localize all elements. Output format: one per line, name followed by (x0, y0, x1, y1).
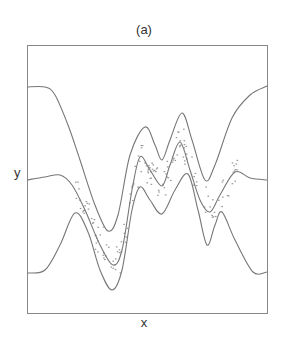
data-point (84, 205, 86, 206)
data-point (94, 219, 96, 220)
plot-frame (28, 46, 268, 314)
data-point (221, 206, 223, 207)
data-point (78, 188, 80, 189)
data-point (165, 194, 167, 195)
data-point (237, 160, 239, 161)
data-point (100, 234, 102, 235)
data-point (236, 163, 238, 164)
data-point (97, 227, 99, 228)
data-point (91, 218, 93, 219)
data-point (97, 251, 99, 252)
data-point (141, 145, 143, 146)
data-point (193, 176, 195, 177)
data-point (113, 268, 115, 269)
data-point (196, 181, 198, 182)
data-point (214, 212, 216, 213)
data-point (164, 171, 166, 172)
data-point (223, 180, 225, 181)
data-point (132, 200, 134, 201)
data-point (234, 181, 236, 182)
data-point (115, 269, 117, 270)
data-point (106, 244, 108, 245)
data-point (173, 158, 175, 159)
data-point (153, 171, 155, 172)
curves (27, 86, 267, 290)
data-point (148, 172, 150, 173)
data-point (150, 178, 152, 179)
data-point (127, 228, 129, 229)
plot-area (0, 0, 288, 338)
data-point (148, 165, 150, 166)
data-point (167, 161, 169, 162)
mean-curve (27, 142, 267, 265)
upper-band-curve (27, 86, 267, 231)
data-point (176, 137, 178, 138)
data-point (175, 160, 177, 161)
data-point (86, 201, 88, 202)
data-point (183, 157, 185, 158)
data-point (151, 163, 153, 164)
data-point (164, 187, 166, 188)
data-point (134, 166, 136, 167)
data-point (183, 129, 185, 130)
data-point (215, 216, 217, 217)
data-point (139, 161, 141, 162)
data-point (167, 166, 169, 167)
data-point (152, 169, 154, 170)
data-point (196, 185, 198, 186)
data-point (209, 206, 211, 207)
data-point (205, 212, 207, 213)
data-point (186, 154, 188, 155)
data-point (157, 195, 159, 196)
data-point (89, 203, 91, 204)
data-point (222, 197, 224, 198)
data-point (232, 162, 234, 163)
data-point (185, 146, 187, 147)
data-point (179, 146, 181, 147)
data-point (177, 131, 179, 132)
data-point (236, 169, 238, 170)
data-point (218, 200, 220, 201)
data-point (184, 144, 186, 145)
data-point (108, 247, 110, 248)
data-point (172, 162, 174, 163)
data-point (234, 170, 236, 171)
data-point (95, 249, 97, 250)
data-point (146, 182, 148, 183)
data-point (157, 167, 159, 168)
data-point (112, 261, 114, 262)
data-point (211, 215, 213, 216)
data-point (111, 267, 113, 268)
data-point (151, 184, 153, 185)
data-point (103, 257, 105, 258)
data-point (158, 191, 160, 192)
data-point (180, 145, 182, 146)
data-point (232, 183, 234, 184)
data-point (82, 211, 84, 212)
data-point (158, 190, 160, 191)
data-point (235, 169, 237, 170)
data-point (233, 165, 235, 166)
data-point (213, 216, 215, 217)
data-point (117, 251, 119, 252)
data-point (172, 159, 174, 160)
data-point (119, 252, 121, 253)
data-point (222, 181, 224, 182)
data-point (116, 246, 118, 247)
data-point (184, 160, 186, 161)
data-point (77, 182, 79, 183)
data-point (191, 156, 193, 157)
data-point (180, 140, 182, 141)
data-point (155, 171, 157, 172)
data-point (184, 140, 186, 141)
data-point (152, 164, 154, 165)
data-point (88, 209, 90, 210)
data-point (227, 195, 229, 196)
data-point (80, 208, 82, 209)
data-point (207, 196, 209, 197)
data-point (84, 213, 86, 214)
data-point (119, 249, 121, 250)
data-point (125, 236, 127, 237)
data-point (141, 147, 143, 148)
data-point (195, 173, 197, 174)
